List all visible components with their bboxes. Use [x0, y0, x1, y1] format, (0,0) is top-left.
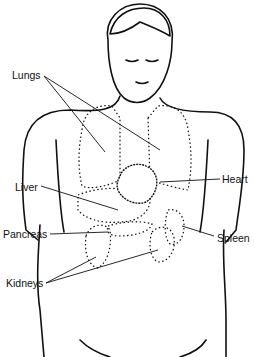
torso-left	[23, 96, 120, 240]
label-spleen: Spleen	[217, 233, 250, 244]
heart	[117, 164, 157, 203]
leader-lungs	[44, 76, 160, 152]
label-lungs: Lungs	[12, 70, 41, 81]
pancreas	[107, 222, 152, 236]
anatomy-drawing	[0, 0, 255, 357]
label-heart: Heart	[222, 174, 248, 185]
hair	[110, 8, 170, 36]
leader-kidneys	[46, 250, 158, 283]
label-pancreas: Pancreas	[3, 229, 47, 240]
left-lung	[79, 106, 120, 188]
label-liver: Liver	[15, 182, 38, 193]
label-kidneys: Kidneys	[6, 278, 43, 289]
kidney-right	[150, 227, 174, 262]
spleen	[165, 210, 184, 245]
leader-pancreas	[50, 232, 108, 234]
leader-liver	[41, 186, 118, 210]
leader-spleen	[182, 226, 214, 236]
